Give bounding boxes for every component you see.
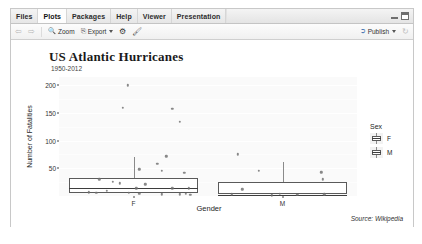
tab-help-label: Help: [116, 13, 132, 20]
gridline-major: [59, 168, 357, 169]
boxplot-median-line: [218, 195, 346, 196]
legend-title: Sex: [370, 123, 407, 130]
legend-item-m[interactable]: M: [370, 147, 407, 158]
tabbar-filler: [226, 9, 387, 23]
plot-panel: 50100150200FM: [59, 77, 357, 196]
tab-files-label: Files: [16, 13, 32, 20]
tab-viewer-label: Viewer: [143, 13, 166, 20]
broom-icon[interactable]: 🖌: [132, 28, 142, 36]
y-axis-tick-mark: [57, 140, 59, 141]
data-point: [161, 169, 163, 171]
minimize-icon[interactable]: [391, 17, 398, 19]
maximize-icon[interactable]: [401, 12, 409, 20]
y-axis-title: Number of Fatalities: [26, 82, 33, 192]
y-axis-tick-label: 50: [49, 165, 56, 172]
publish-icon: ➲: [360, 28, 366, 35]
gridline-minor: [59, 99, 357, 100]
x-axis-tick-mark: [133, 196, 134, 198]
pane-tabbar: Files Plots Packages Help Viewer Present…: [11, 9, 413, 24]
x-axis-tick-label: F: [132, 200, 136, 207]
gridline-major: [59, 113, 357, 114]
boxplot-glyph-icon: [370, 133, 383, 144]
data-point: [257, 170, 259, 172]
tab-packages[interactable]: Packages: [67, 9, 111, 23]
rstudio-plots-pane: Files Plots Packages Help Viewer Present…: [10, 8, 414, 227]
legend-item-f[interactable]: F: [370, 133, 407, 144]
boxplot-whisker: [134, 157, 135, 177]
data-point: [156, 163, 158, 165]
gridline-minor: [59, 154, 357, 155]
x-axis-title: Gender: [59, 204, 359, 213]
tab-packages-label: Packages: [72, 13, 105, 20]
legend-item-f-label: F: [387, 135, 391, 142]
tab-viewer[interactable]: Viewer: [138, 9, 172, 23]
magnifier-icon: 🔍: [48, 28, 56, 35]
plot-output-area: US Atlantic Hurricanes 1950-2012 Number …: [11, 41, 413, 227]
data-point: [171, 107, 173, 109]
boxplot-glyph-icon: [370, 147, 383, 158]
gridline-major: [59, 85, 357, 86]
chevron-down-icon: [109, 30, 113, 33]
gridline-minor: [59, 127, 357, 128]
data-point: [189, 194, 191, 196]
tab-files[interactable]: Files: [11, 9, 38, 23]
tab-plots[interactable]: Plots: [38, 9, 67, 23]
x-axis-tick-mark: [282, 196, 283, 198]
data-point: [320, 171, 322, 173]
legend: Sex F M: [366, 120, 410, 165]
back-arrow-icon[interactable]: ⇦: [15, 28, 22, 36]
zoom-button-label: Zoom: [58, 28, 75, 35]
data-point: [322, 178, 324, 180]
y-axis-tick-mark: [57, 168, 59, 169]
chart-subtitle: 1950-2012: [51, 65, 82, 72]
x-axis-tick-label: M: [280, 200, 285, 207]
chart-caption: Source: Wikipedia: [351, 215, 403, 222]
y-axis-tick-label: 150: [45, 109, 56, 116]
data-point: [183, 172, 185, 174]
boxplot-whisker: [283, 162, 284, 182]
tab-plots-label: Plots: [43, 13, 61, 20]
tab-presentation[interactable]: Presentation: [172, 9, 227, 23]
y-axis-tick-label: 200: [45, 82, 56, 89]
ggplot-figure: US Atlantic Hurricanes 1950-2012 Number …: [11, 41, 413, 227]
plots-toolbar: ⇦ ⇨ 🔍 Zoom ⎘ Export ⚙ 🖌 ➲ Publish ↻: [11, 24, 413, 40]
gear-icon[interactable]: ⚙: [119, 28, 126, 36]
tab-help[interactable]: Help: [111, 9, 138, 23]
publish-button-label: Publish: [368, 28, 389, 35]
forward-arrow-icon[interactable]: ⇨: [28, 28, 35, 36]
boxplot-median-line: [69, 188, 197, 189]
boxplot-box[interactable]: [218, 182, 346, 194]
export-button[interactable]: ⎘ Export: [81, 28, 114, 35]
legend-item-m-label: M: [387, 149, 392, 156]
data-point: [161, 193, 163, 195]
export-icon: ⎘: [81, 28, 86, 35]
data-point: [122, 107, 124, 109]
data-point: [178, 193, 180, 195]
y-axis-tick-mark: [57, 85, 59, 86]
tab-presentation-label: Presentation: [177, 13, 221, 20]
y-axis-tick-label: 100: [45, 137, 56, 144]
chart-title: US Atlantic Hurricanes: [49, 49, 183, 65]
zoom-button[interactable]: 🔍 Zoom: [48, 28, 75, 35]
y-axis-tick-mark: [57, 112, 59, 113]
refresh-icon[interactable]: ↻: [402, 28, 409, 36]
window-controls: [387, 9, 413, 23]
gridline-major: [59, 141, 357, 142]
export-button-label: Export: [88, 28, 107, 35]
toolbar-divider-1: [41, 27, 42, 37]
data-point: [178, 121, 180, 123]
chevron-down-icon: [392, 30, 396, 33]
publish-button[interactable]: ➲ Publish: [360, 28, 396, 35]
